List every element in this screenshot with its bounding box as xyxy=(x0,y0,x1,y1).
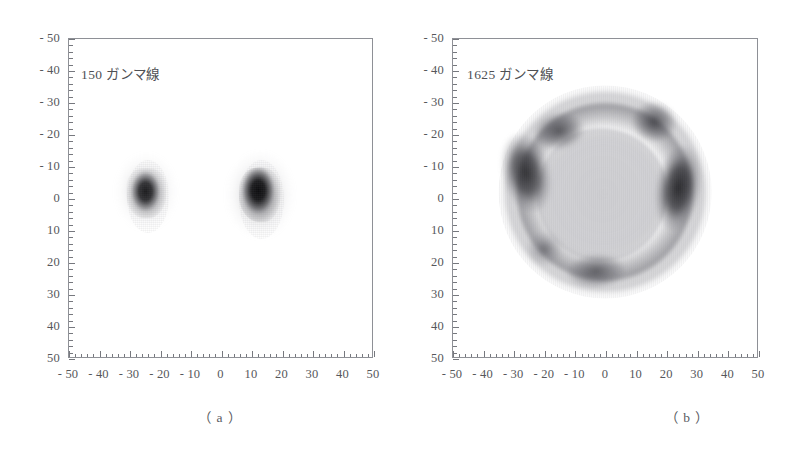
y-tick-minor xyxy=(69,276,73,277)
x-tick-minor xyxy=(203,354,204,358)
y-tick-minor xyxy=(69,205,73,206)
y-tick-minor xyxy=(453,193,457,194)
x-tick-minor xyxy=(185,354,186,358)
y-tick-minor xyxy=(453,244,457,245)
x-tick-label: - 20 xyxy=(534,367,555,382)
x-tick-major xyxy=(313,351,314,357)
y-tick-major xyxy=(453,71,459,72)
x-tick-major xyxy=(161,351,162,357)
y-tick-major xyxy=(69,39,75,40)
y-tick-label: 30 xyxy=(0,287,60,302)
y-tick-minor xyxy=(453,346,457,347)
x-tick-minor xyxy=(87,354,88,358)
x-tick-minor xyxy=(520,354,521,358)
x-tick-label: 30 xyxy=(690,367,703,382)
y-tick-minor xyxy=(69,237,73,238)
x-tick-minor xyxy=(246,354,247,358)
y-tick-minor xyxy=(69,65,73,66)
x-tick-minor xyxy=(661,354,662,358)
y-tick-minor xyxy=(453,218,457,219)
y-tick-minor xyxy=(453,84,457,85)
y-tick-major xyxy=(69,295,75,296)
x-tick-label: 0 xyxy=(602,367,608,382)
x-tick-label: 50 xyxy=(367,367,380,382)
y-tick-minor xyxy=(69,122,73,123)
x-tick-minor xyxy=(197,354,198,358)
y-tick-minor xyxy=(453,186,457,187)
x-tick-minor xyxy=(496,354,497,358)
y-tick-minor xyxy=(453,45,457,46)
y-tick-major xyxy=(453,263,459,264)
y-tick-label: - 40 xyxy=(0,63,60,78)
x-tick-major xyxy=(545,351,546,357)
x-tick-minor xyxy=(569,354,570,358)
y-tick-minor xyxy=(453,52,457,53)
y-tick-major xyxy=(69,135,75,136)
y-tick-minor xyxy=(69,154,73,155)
x-tick-label: 40 xyxy=(721,367,734,382)
y-tick-label: 0 xyxy=(382,191,444,206)
y-tick-minor xyxy=(69,269,73,270)
x-tick-minor xyxy=(167,354,168,358)
y-tick-minor xyxy=(453,340,457,341)
caption-b: （ b ） xyxy=(665,406,710,426)
x-tick-minor xyxy=(136,354,137,358)
x-tick-major xyxy=(191,351,192,357)
x-tick-major xyxy=(252,351,253,357)
y-tick-minor xyxy=(453,58,457,59)
x-tick-minor xyxy=(350,354,351,358)
y-tick-minor xyxy=(69,257,73,258)
y-tick-minor xyxy=(69,77,73,78)
y-tick-major xyxy=(453,231,459,232)
x-tick-minor xyxy=(704,354,705,358)
y-tick-minor xyxy=(453,205,457,206)
x-tick-minor xyxy=(75,354,76,358)
y-tick-label: - 30 xyxy=(0,95,60,110)
y-tick-minor xyxy=(453,90,457,91)
y-tick-label: - 20 xyxy=(0,127,60,142)
x-tick-minor xyxy=(228,354,229,358)
y-tick-label: - 10 xyxy=(382,159,444,174)
x-tick-minor xyxy=(289,354,290,358)
y-tick-minor xyxy=(453,308,457,309)
x-tick-minor xyxy=(551,354,552,358)
x-tick-minor xyxy=(106,354,107,358)
y-tick-label: - 40 xyxy=(382,63,444,78)
x-tick-minor xyxy=(747,354,748,358)
y-tick-major xyxy=(69,71,75,72)
x-tick-label: - 40 xyxy=(472,367,493,382)
y-tick-label: - 50 xyxy=(0,31,60,46)
x-tick-minor xyxy=(337,354,338,358)
y-tick-minor xyxy=(69,90,73,91)
x-tick-minor xyxy=(686,354,687,358)
x-tick-major xyxy=(667,351,668,357)
y-tick-minor xyxy=(69,58,73,59)
plot-annotation-b: 1625 ガンマ線 xyxy=(467,63,553,83)
x-tick-major xyxy=(374,351,375,357)
x-tick-label: - 10 xyxy=(564,367,585,382)
x-tick-minor xyxy=(508,354,509,358)
x-tick-minor xyxy=(362,354,363,358)
y-tick-minor xyxy=(453,154,457,155)
y-tick-minor xyxy=(453,173,457,174)
y-tick-minor xyxy=(453,301,457,302)
x-tick-minor xyxy=(741,354,742,358)
x-tick-minor xyxy=(722,354,723,358)
x-tick-minor xyxy=(612,354,613,358)
x-tick-minor xyxy=(502,354,503,358)
y-tick-major xyxy=(453,135,459,136)
y-tick-minor xyxy=(453,161,457,162)
x-tick-label: 20 xyxy=(275,367,288,382)
y-tick-minor xyxy=(453,77,457,78)
y-tick-minor xyxy=(453,282,457,283)
y-tick-minor xyxy=(453,65,457,66)
x-tick-minor xyxy=(234,354,235,358)
x-tick-minor xyxy=(215,354,216,358)
y-tick-minor xyxy=(69,340,73,341)
x-tick-label: 20 xyxy=(660,367,673,382)
y-tick-major xyxy=(69,263,75,264)
plot-area-a xyxy=(69,39,372,357)
y-tick-minor xyxy=(69,109,73,110)
y-tick-minor xyxy=(69,333,73,334)
y-tick-minor xyxy=(453,148,457,149)
